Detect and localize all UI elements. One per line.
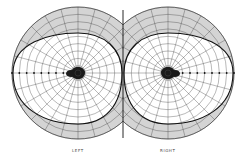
right-eye-label: RIGHT [160,148,176,153]
left-eye-label: LEFT [72,148,84,153]
visual-field-chart [0,0,243,160]
